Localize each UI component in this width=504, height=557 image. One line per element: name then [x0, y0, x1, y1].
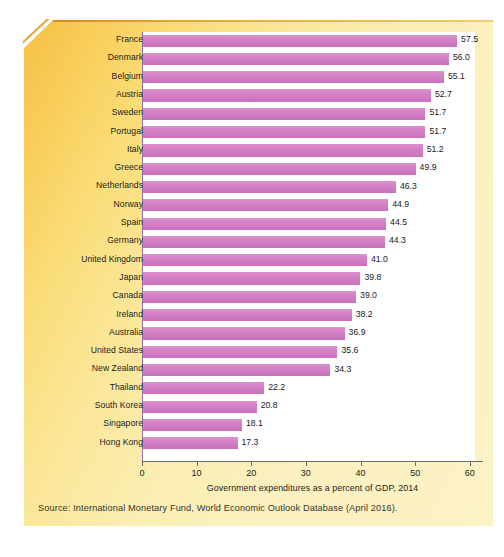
- bar-value-label: 44.5: [390, 217, 407, 227]
- x-axis-line: [142, 461, 483, 462]
- bar-row: Sweden51.7: [0, 105, 504, 123]
- x-axis-tick: [197, 461, 198, 466]
- x-axis-tick: [415, 461, 416, 466]
- bar-row: Austria52.7: [0, 87, 504, 105]
- bar-row: Netherlands46.3: [0, 178, 504, 196]
- bar-row: Japan39.8: [0, 270, 504, 288]
- category-label: Australia: [0, 327, 143, 337]
- bar-value-label: 39.0: [360, 290, 377, 300]
- category-label: Netherlands: [0, 180, 143, 190]
- bar-row: Spain44.5: [0, 215, 504, 233]
- bar: [143, 364, 330, 376]
- x-axis-tick-label: 0: [122, 468, 162, 478]
- source-note: Source: International Monetary Fund, Wor…: [38, 503, 397, 513]
- category-label: United Kingdom: [0, 254, 143, 264]
- bar-row: Greece49.9: [0, 160, 504, 178]
- bar: [143, 108, 425, 120]
- bar: [143, 254, 367, 266]
- bar-row: Norway44.9: [0, 197, 504, 215]
- bar-value-label: 18.1: [246, 418, 263, 428]
- bar-value-label: 36.9: [349, 327, 366, 337]
- category-label: Ireland: [0, 309, 143, 319]
- bar-row: Ireland38.2: [0, 307, 504, 325]
- bar: [143, 272, 360, 284]
- bar: [143, 346, 337, 358]
- bar-rows: France57.5Denmark56.0Belgium55.1Austria5…: [0, 32, 504, 456]
- x-axis-tick: [142, 461, 143, 466]
- bar-value-label: 35.6: [341, 345, 358, 355]
- bar-value-label: 34.3: [334, 364, 351, 374]
- bar-row: Thailand22.2: [0, 380, 504, 398]
- figure-container: France57.5Denmark56.0Belgium55.1Austria5…: [0, 0, 504, 557]
- bar: [143, 126, 425, 138]
- x-axis-tick-label: 10: [177, 468, 217, 478]
- bar-row: Singapore18.1: [0, 416, 504, 434]
- bar: [143, 53, 449, 65]
- category-label: Austria: [0, 89, 143, 99]
- bar: [143, 181, 396, 193]
- bar-value-label: 39.8: [364, 272, 381, 282]
- bar-value-label: 49.9: [420, 162, 437, 172]
- bar-value-label: 22.2: [268, 382, 285, 392]
- category-label: Spain: [0, 217, 143, 227]
- x-axis-tick: [470, 461, 471, 466]
- bar: [143, 327, 345, 339]
- x-axis-tick-label: 50: [395, 468, 435, 478]
- category-label: Singapore: [0, 418, 143, 428]
- bar-value-label: 56.0: [453, 52, 470, 62]
- bar-value-label: 52.7: [435, 89, 452, 99]
- bar-value-label: 17.3: [242, 437, 259, 447]
- bar: [143, 401, 257, 413]
- x-axis-tick-label: 30: [286, 468, 326, 478]
- bar: [143, 437, 238, 449]
- bar: [143, 419, 242, 431]
- category-label: Canada: [0, 290, 143, 300]
- category-label: France: [0, 34, 143, 44]
- x-axis-tick: [361, 461, 362, 466]
- category-label: Germany: [0, 235, 143, 245]
- bar: [143, 382, 264, 394]
- bar-value-label: 51.7: [429, 107, 446, 117]
- category-label: United States: [0, 345, 143, 355]
- bar: [143, 291, 356, 303]
- category-label: Greece: [0, 162, 143, 172]
- bar-value-label: 44.3: [389, 235, 406, 245]
- panel-top-edge: [53, 20, 493, 22]
- bar-row: United States35.6: [0, 343, 504, 361]
- category-label: Norway: [0, 199, 143, 209]
- bar-row: Italy51.2: [0, 142, 504, 160]
- bar-value-label: 46.3: [400, 181, 417, 191]
- x-axis-tick-label: 20: [231, 468, 271, 478]
- bar: [143, 309, 352, 321]
- category-label: Japan: [0, 272, 143, 282]
- bar-row: South Korea20.8: [0, 398, 504, 416]
- category-label: Belgium: [0, 71, 143, 81]
- bar-value-label: 38.2: [356, 309, 373, 319]
- bar-row: Canada39.0: [0, 288, 504, 306]
- bar-row: Denmark56.0: [0, 50, 504, 68]
- category-label: Sweden: [0, 107, 143, 117]
- bar-value-label: 20.8: [261, 400, 278, 410]
- bar-row: Hong Kong17.3: [0, 435, 504, 453]
- bar-value-label: 57.5: [461, 34, 478, 44]
- x-axis-title: Government expenditures as a percent of …: [142, 483, 483, 493]
- x-axis-tick-label: 60: [450, 468, 490, 478]
- bar-row: Australia36.9: [0, 325, 504, 343]
- bar: [143, 144, 423, 156]
- category-label: Thailand: [0, 382, 143, 392]
- bar-value-label: 51.2: [427, 144, 444, 154]
- bar: [143, 35, 457, 47]
- bar-row: Germany44.3: [0, 233, 504, 251]
- bar-value-label: 41.0: [371, 254, 388, 264]
- bar: [143, 218, 386, 230]
- bar-row: France57.5: [0, 32, 504, 50]
- x-axis-tick: [251, 461, 252, 466]
- bar-row: United Kingdom41.0: [0, 252, 504, 270]
- x-axis-tick: [306, 461, 307, 466]
- category-label: Italy: [0, 144, 143, 154]
- category-label: Hong Kong: [0, 437, 143, 447]
- bar: [143, 163, 416, 175]
- bar-row: Belgium55.1: [0, 69, 504, 87]
- bar-row: New Zealand34.3: [0, 361, 504, 379]
- category-label: South Korea: [0, 400, 143, 410]
